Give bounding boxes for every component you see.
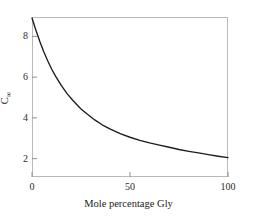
x-axis-title: Mole percentage Gly [0, 198, 257, 209]
y-tick-label: 8 [8, 31, 28, 41]
figure-canvas: 2468 050100 C∞ Mole percentage Gly [0, 0, 257, 222]
y-tick-label: 2 [8, 154, 28, 164]
plot-frame [32, 17, 228, 177]
y-axis-title: C∞ [0, 78, 13, 118]
x-tick-label: 0 [30, 182, 35, 192]
y-axis-title-base: C [0, 97, 10, 104]
x-tick-label: 50 [125, 182, 135, 192]
x-tick-label: 100 [221, 182, 236, 192]
y-axis-title-subscript: ∞ [4, 92, 13, 97]
